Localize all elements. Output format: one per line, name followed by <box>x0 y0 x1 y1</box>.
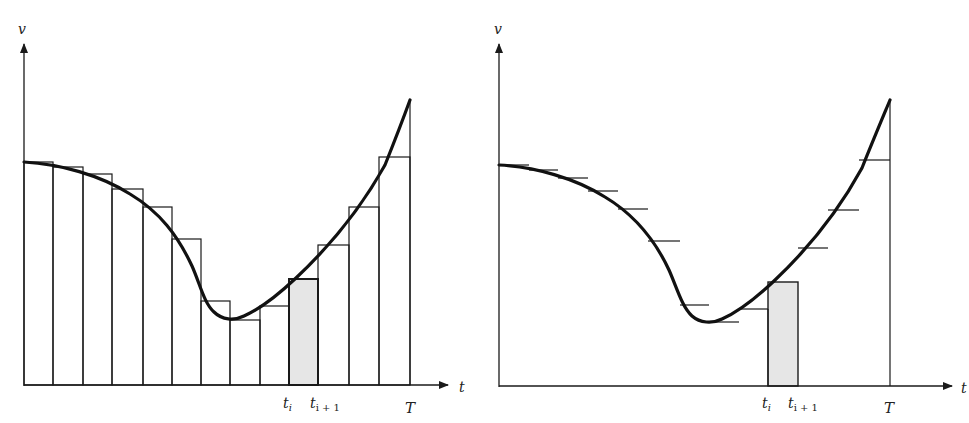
x-axis-label: t <box>459 379 465 395</box>
right-panel: v t ti ti + 1 T <box>494 21 967 417</box>
figure-canvas: v t ti ti + 1 T v t ti <box>0 0 969 423</box>
tick-label-t-i: ti <box>762 395 771 413</box>
tick-label-T: T <box>884 399 895 417</box>
tick-label-t-i-plus-1: ti + 1 <box>788 395 818 413</box>
highlighted-rectangle <box>289 279 318 385</box>
highlighted-rectangle <box>768 282 798 386</box>
velocity-curve <box>24 100 410 319</box>
tick-label-t-i-plus-1: ti + 1 <box>310 395 340 413</box>
step-tops <box>499 100 890 386</box>
y-axis-label: v <box>18 21 26 37</box>
y-axis-label: v <box>494 21 502 37</box>
velocity-curve <box>499 100 890 322</box>
x-axis-label: t <box>961 380 967 396</box>
left-panel: v t ti ti + 1 T <box>18 21 465 417</box>
tick-label-t-i: ti <box>283 395 292 413</box>
riemann-rectangles <box>24 100 410 385</box>
tick-label-T: T <box>405 399 416 417</box>
